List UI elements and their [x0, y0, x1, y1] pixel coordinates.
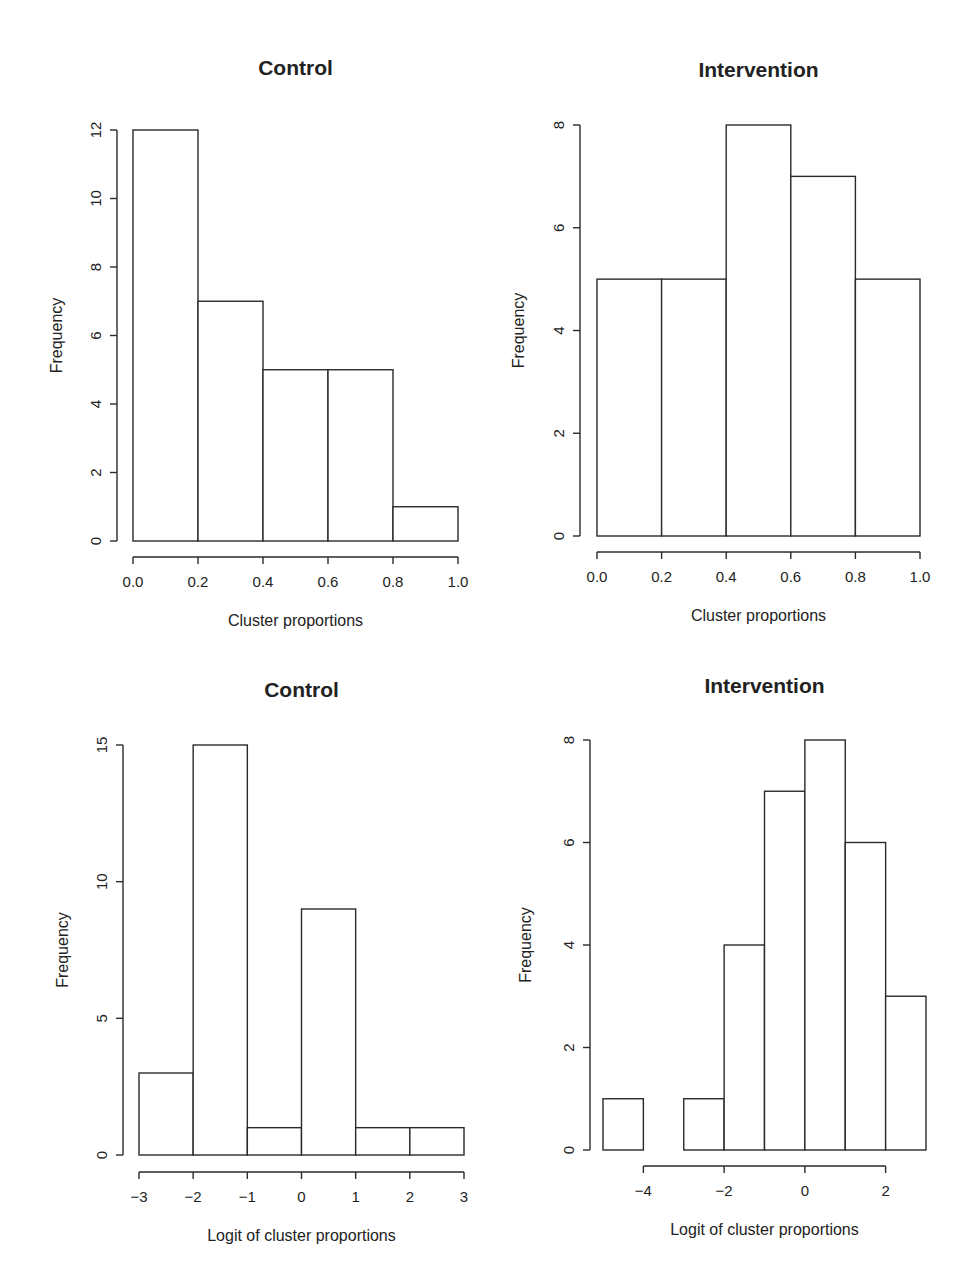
x-axis: 0.00.20.40.60.81.0Cluster proportions	[123, 557, 469, 629]
histogram-bar	[726, 125, 791, 536]
x-tick-label: 2	[406, 1188, 414, 1205]
x-tick-label: 0.2	[188, 573, 209, 590]
x-tick-label: 0	[801, 1182, 809, 1199]
x-tick-label: −2	[716, 1182, 733, 1199]
histogram-bar	[198, 301, 263, 541]
histogram-bar	[765, 791, 805, 1150]
chart-title: Intervention	[704, 674, 824, 697]
histogram-bar	[791, 176, 856, 536]
histogram-intervention-proportions: Intervention02468Frequency0.00.20.40.60.…	[489, 40, 978, 640]
histogram-bar	[133, 130, 198, 541]
histogram-bar	[662, 279, 727, 536]
x-axis: 0.00.20.40.60.81.0Cluster proportions	[587, 552, 931, 624]
y-tick-label: 10	[93, 873, 110, 890]
y-tick-label: 12	[87, 122, 104, 139]
y-tick-label: 8	[560, 736, 577, 744]
y-tick-label: 5	[93, 1014, 110, 1022]
x-tick-label: 0.0	[123, 573, 144, 590]
x-tick-label: 0.6	[780, 568, 801, 585]
y-axis-label: Frequency	[517, 907, 534, 983]
histogram-bars	[603, 740, 926, 1150]
histogram-intervention-logit: Intervention02468Frequency−4−202Logit of…	[489, 660, 978, 1279]
x-tick-label: 0.6	[318, 573, 339, 590]
x-tick-label: 1	[351, 1188, 359, 1205]
histogram-bar	[393, 507, 458, 541]
x-tick-label: −2	[185, 1188, 202, 1205]
y-tick-label: 0	[87, 537, 104, 545]
y-tick-label: 6	[560, 838, 577, 846]
histogram-bar	[724, 945, 764, 1150]
x-tick-label: −4	[635, 1182, 652, 1199]
x-tick-label: 0.8	[845, 568, 866, 585]
y-tick-label: 0	[93, 1151, 110, 1159]
histogram-bar	[603, 1099, 643, 1150]
x-axis: −4−202Logit of cluster proportions	[635, 1166, 890, 1238]
y-axis-label: Frequency	[54, 912, 71, 988]
x-tick-label: 0.4	[716, 568, 737, 585]
histogram-bars	[133, 130, 458, 541]
histogram-bar	[139, 1073, 193, 1155]
histogram-bar	[845, 843, 885, 1151]
x-tick-label: 1.0	[910, 568, 931, 585]
histogram-bars	[597, 125, 920, 536]
y-axis: 02468Frequency	[510, 121, 580, 540]
y-axis: 02468Frequency	[517, 736, 590, 1154]
x-tick-label: 0.4	[253, 573, 274, 590]
histogram-bar	[886, 996, 926, 1150]
x-axis-label: Logit of cluster proportions	[670, 1221, 859, 1238]
x-axis-label: Cluster proportions	[228, 612, 363, 629]
x-tick-label: −3	[130, 1188, 147, 1205]
histogram-bar	[356, 1128, 410, 1155]
chart-title: Control	[258, 56, 333, 79]
histogram-bars	[139, 745, 464, 1155]
y-tick-label: 4	[550, 326, 567, 334]
y-tick-label: 6	[87, 331, 104, 339]
histogram-bar	[328, 370, 393, 541]
histogram-bar	[855, 279, 920, 536]
histogram-bar	[247, 1128, 301, 1155]
y-tick-label: 4	[560, 941, 577, 949]
histogram-bar	[193, 745, 247, 1155]
y-axis-label: Frequency	[510, 293, 527, 369]
histogram-bar	[684, 1099, 724, 1150]
y-tick-label: 6	[550, 224, 567, 232]
chart-title: Control	[264, 678, 339, 701]
y-axis: 051015Frequency	[54, 737, 123, 1160]
y-axis: 024681012Frequency	[48, 122, 117, 546]
x-tick-label: 2	[881, 1182, 889, 1199]
y-tick-label: 0	[550, 532, 567, 540]
histogram-control-proportions: Control024681012Frequency0.00.20.40.60.8…	[0, 40, 489, 640]
chart-title: Intervention	[698, 58, 818, 81]
histogram-bar	[410, 1128, 464, 1155]
y-tick-label: 15	[93, 737, 110, 754]
histogram-bar	[302, 909, 356, 1155]
histogram-bar	[263, 370, 328, 541]
x-tick-label: 0.2	[651, 568, 672, 585]
y-tick-label: 2	[87, 468, 104, 476]
histogram-control-logit: Control051015Frequency−3−2−10123Logit of…	[0, 660, 489, 1279]
x-axis: −3−2−10123Logit of cluster proportions	[130, 1172, 468, 1244]
x-tick-label: 0	[297, 1188, 305, 1205]
x-tick-label: 0.8	[383, 573, 404, 590]
x-tick-label: 0.0	[587, 568, 608, 585]
histogram-bar	[805, 740, 845, 1150]
x-tick-label: 1.0	[448, 573, 469, 590]
x-axis-label: Logit of cluster proportions	[207, 1227, 396, 1244]
y-axis-label: Frequency	[48, 298, 65, 374]
y-tick-label: 2	[560, 1043, 577, 1051]
y-tick-label: 8	[87, 263, 104, 271]
y-tick-label: 10	[87, 190, 104, 207]
histogram-bar	[597, 279, 662, 536]
y-tick-label: 0	[560, 1146, 577, 1154]
x-axis-label: Cluster proportions	[691, 607, 826, 624]
x-tick-label: 3	[460, 1188, 468, 1205]
y-tick-label: 2	[550, 429, 567, 437]
y-tick-label: 4	[87, 400, 104, 408]
y-tick-label: 8	[550, 121, 567, 129]
x-tick-label: −1	[239, 1188, 256, 1205]
